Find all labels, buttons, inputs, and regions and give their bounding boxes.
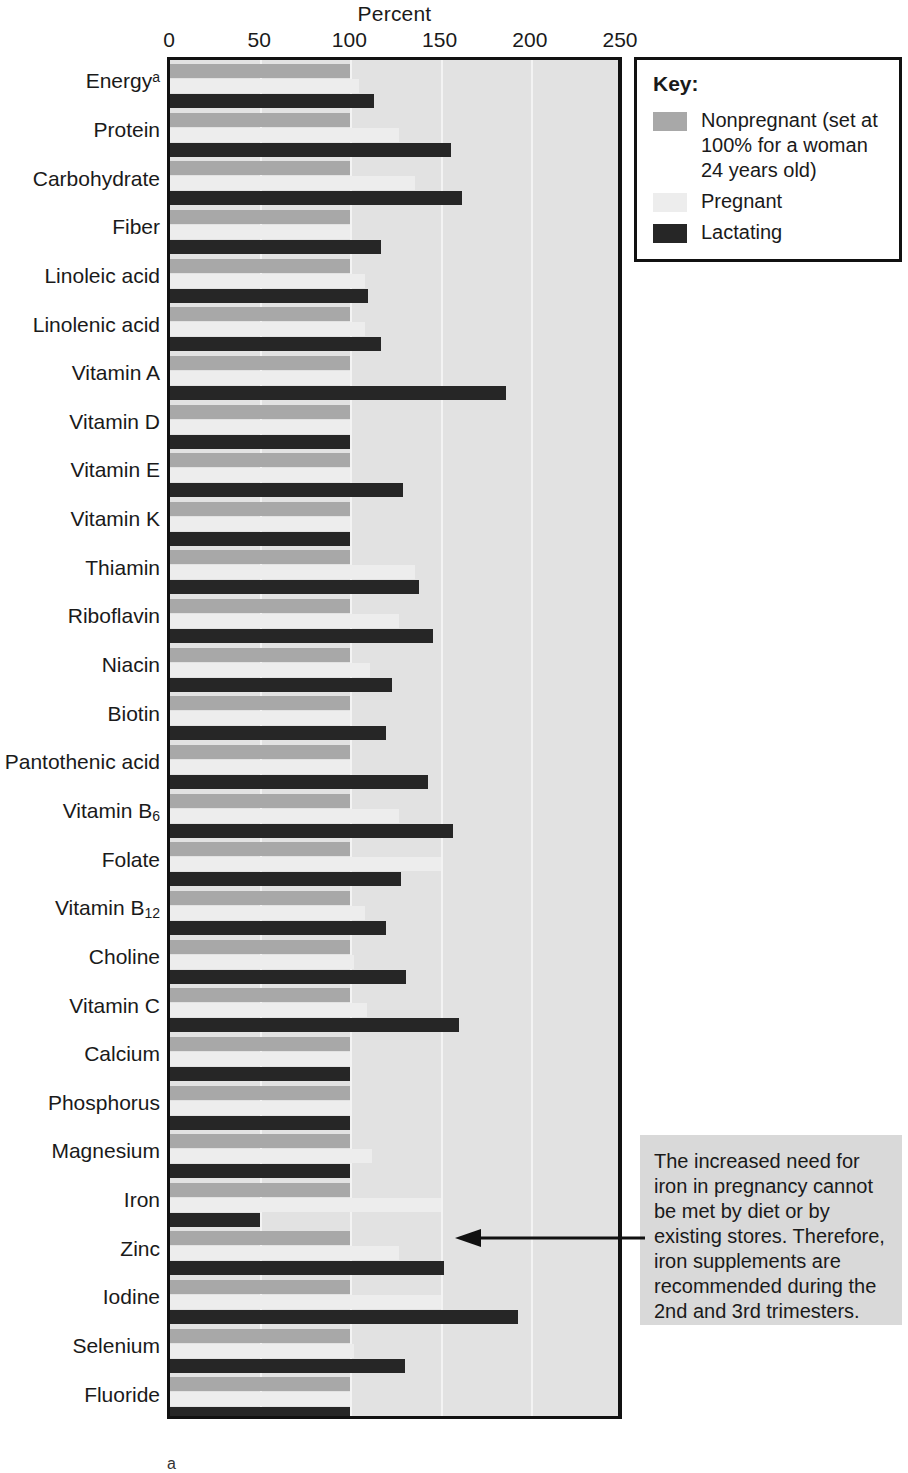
legend-entries: Nonpregnant (set at 100% for a woman 24 … [653, 108, 887, 245]
bar-np [170, 794, 350, 808]
bar-lac [170, 775, 428, 789]
bar-pg [170, 1344, 354, 1358]
bar-group [170, 352, 618, 401]
legend-swatch-pg [653, 193, 687, 212]
x-tick-label-0: 0 [163, 28, 175, 52]
bar-np [170, 356, 350, 370]
x-tick-label-250: 250 [602, 28, 637, 52]
bar-lac [170, 435, 350, 449]
bar-np [170, 1280, 350, 1294]
bar-pg [170, 1392, 350, 1406]
bar-pg [170, 1246, 399, 1260]
annotation-arrow-icon [455, 1228, 645, 1248]
x-tick-label-50: 50 [248, 28, 271, 52]
bar-lac [170, 872, 401, 886]
bar-lac [170, 580, 419, 594]
legend-label-pg: Pregnant [701, 189, 782, 214]
y-label-10: Thiamin [85, 556, 160, 580]
y-label-3: Fiber [112, 215, 160, 239]
y-label-6: Vitamin A [72, 361, 160, 385]
y-label-11: Riboflavin [68, 604, 160, 628]
bar-group [170, 546, 618, 595]
bar-group [170, 60, 618, 109]
bar-np [170, 64, 350, 78]
y-label-25: Iodine [103, 1285, 160, 1309]
bar-lac [170, 191, 462, 205]
x-tick-label-200: 200 [512, 28, 547, 52]
bar-pg [170, 760, 350, 774]
iron-annotation-note: The increased need for iron in pregnancy… [640, 1135, 902, 1325]
bar-lac [170, 289, 368, 303]
bar-lac [170, 386, 506, 400]
bar-group [170, 790, 618, 839]
bar-lac [170, 1359, 405, 1373]
bar-lac [170, 1407, 350, 1419]
y-label-4: Linoleic acid [44, 264, 160, 288]
bar-np [170, 307, 350, 321]
bar-group [170, 498, 618, 547]
bar-pg [170, 663, 370, 677]
bar-pg [170, 1295, 441, 1309]
bar-lac [170, 1116, 350, 1130]
y-axis-category-labels: EnergyaProteinCarbohydrateFiberLinoleic … [0, 57, 160, 1419]
y-label-23: Iron [124, 1188, 160, 1212]
bar-pg [170, 857, 441, 871]
bar-np [170, 988, 350, 1002]
bar-np [170, 891, 350, 905]
bar-group [170, 109, 618, 158]
bar-pg [170, 906, 365, 920]
x-axis-tick-labels: 050100150200250 [0, 28, 908, 56]
y-label-0: Energya [86, 69, 160, 93]
bar-np [170, 696, 350, 710]
bar-np [170, 1086, 350, 1100]
bar-np [170, 161, 350, 175]
bar-group [170, 741, 618, 790]
bar-np [170, 1037, 350, 1051]
bar-group [170, 1373, 618, 1419]
bar-group [170, 838, 618, 887]
bar-group [170, 401, 618, 450]
bar-lac [170, 483, 403, 497]
bar-pg [170, 711, 350, 725]
bar-lac [170, 1164, 350, 1178]
legend-swatch-lac [653, 224, 687, 243]
legend-label-np: Nonpregnant (set at 100% for a woman 24 … [701, 108, 887, 183]
bar-pg [170, 420, 350, 434]
bar-np [170, 1134, 350, 1148]
bar-group [170, 449, 618, 498]
bar-group [170, 1325, 618, 1374]
y-label-8: Vitamin E [71, 458, 161, 482]
bar-group [170, 984, 618, 1033]
bar-np [170, 550, 350, 564]
bar-lac [170, 1213, 260, 1227]
bar-group [170, 255, 618, 304]
bar-pg [170, 274, 365, 288]
bar-np [170, 113, 350, 127]
y-label-24: Zinc [120, 1237, 160, 1261]
bar-group [170, 1179, 618, 1228]
legend-entry-pg: Pregnant [653, 189, 887, 214]
y-label-17: Vitamin B12 [55, 896, 160, 921]
y-label-14: Pantothenic acid [5, 750, 160, 774]
bar-group [170, 157, 618, 206]
bar-lac [170, 824, 453, 838]
bar-pg [170, 322, 365, 336]
bar-lac [170, 1261, 444, 1275]
bar-group [170, 887, 618, 936]
bar-np [170, 745, 350, 759]
bar-pg [170, 225, 350, 239]
bar-np [170, 940, 350, 954]
bar-group [170, 303, 618, 352]
bar-lac [170, 726, 386, 740]
x-tick-label-150: 150 [422, 28, 457, 52]
y-label-1: Protein [93, 118, 160, 142]
legend-entry-lac: Lactating [653, 220, 887, 245]
bar-lac [170, 1018, 459, 1032]
bar-pg [170, 1052, 350, 1066]
bar-np [170, 1231, 350, 1245]
bar-pg [170, 517, 350, 531]
bar-group [170, 595, 618, 644]
legend-swatch-np [653, 112, 687, 131]
y-label-27: Fluoride [84, 1383, 160, 1407]
bar-np [170, 502, 350, 516]
